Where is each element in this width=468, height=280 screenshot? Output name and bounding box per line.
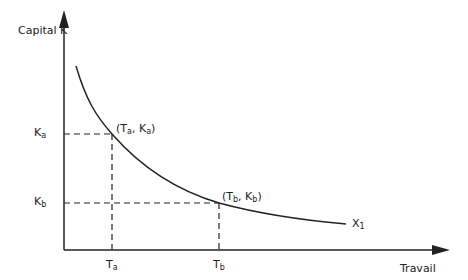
isoquant-curve: [76, 66, 346, 224]
isoquant-diagram: Capital K Travail Ka Kb Ta Tb (Ta, Ka) (…: [0, 0, 468, 280]
diagram-canvas: [0, 0, 468, 280]
y-axis-label: Capital K: [18, 24, 67, 37]
point-a-label: (Ta, Ka): [116, 122, 155, 136]
tb-tick-label: Tb: [213, 258, 225, 272]
x-axis-label: Travail: [400, 262, 436, 275]
point-b-label: (Tb, Kb): [222, 190, 262, 204]
ta-tick-label: Ta: [106, 258, 118, 272]
curve-label: X1: [352, 217, 365, 231]
x-axis-arrow-icon: [432, 245, 450, 255]
ka-tick-label: Ka: [34, 126, 46, 140]
kb-tick-label: Kb: [34, 195, 46, 209]
